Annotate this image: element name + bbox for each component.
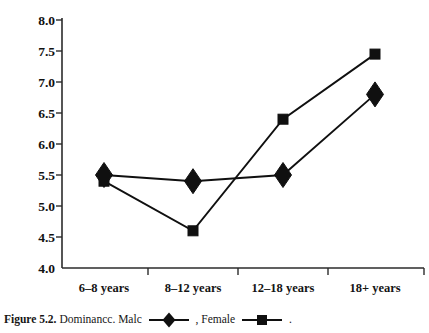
data-point-male	[367, 82, 384, 107]
y-tick-label: 4.5	[38, 230, 55, 245]
y-tick-label: 5.0	[38, 199, 55, 214]
y-tick-label: 7.5	[38, 44, 55, 59]
x-tick-label: 12–18 years	[252, 281, 315, 295]
y-tick-label: 8.0	[38, 13, 55, 28]
data-point-male	[275, 163, 292, 188]
y-axis-tick-labels: 8.0 7.5 7.0 6.5 6.0 5.5 5.0 4.5 4.0	[38, 13, 55, 276]
x-axis-tick-marks	[148, 268, 424, 275]
figure-number: Figure 5.2.	[4, 313, 57, 325]
data-point-female	[370, 49, 380, 59]
legend-separator: ,	[196, 313, 199, 325]
caption-trailing-period: .	[289, 313, 292, 325]
figure-container: 8.0 7.5 7.0 6.5 6.0 5.5 5.0 4.5 4.0	[0, 0, 429, 333]
legend-label-male: Malc	[118, 313, 142, 325]
y-tick-label: 7.0	[38, 75, 55, 90]
data-point-female	[188, 226, 198, 236]
x-axis-tick-labels: 6–8 years 8–12 years 12–18 years 18+ yea…	[79, 281, 401, 295]
legend-marker-female-square-icon	[240, 312, 284, 328]
series-female-markers	[99, 49, 380, 236]
y-tick-label: 4.0	[38, 261, 55, 276]
x-tick-label: 8–12 years	[165, 281, 222, 295]
legend-marker-male-diamond-icon	[147, 312, 191, 328]
y-tick-label: 6.5	[38, 106, 55, 121]
series-female-line	[104, 54, 375, 231]
line-chart: 8.0 7.5 7.0 6.5 6.0 5.5 5.0 4.5 4.0	[0, 0, 429, 333]
series-male-line	[104, 94, 375, 181]
y-tick-label: 6.0	[38, 137, 55, 152]
figure-title-text: Dominancc.	[59, 313, 115, 325]
data-point-male	[185, 169, 202, 194]
figure-caption: Figure 5.2. Dominancc. Malc , Female .	[4, 310, 429, 330]
data-point-female	[278, 114, 288, 124]
legend-label-female: Female	[201, 313, 235, 325]
y-tick-label: 5.5	[38, 168, 55, 183]
x-tick-label: 18+ years	[349, 281, 400, 295]
x-tick-label: 6–8 years	[79, 281, 129, 295]
y-axis-tick-marks	[56, 20, 62, 237]
